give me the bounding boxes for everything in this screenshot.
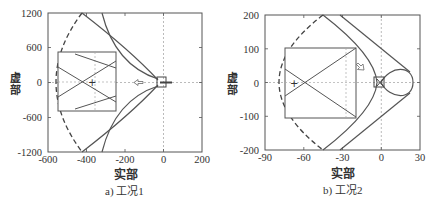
xlabel-b: 实部	[331, 164, 355, 181]
ytick-a-0: 0	[37, 77, 42, 88]
xtick-a-neg200: -200	[115, 154, 134, 165]
ylabel-b: 虚部	[223, 72, 239, 96]
xtick-a-neg400: -400	[77, 154, 96, 165]
caption-a: a) 工况1	[105, 182, 144, 198]
xtick-a-0: 0	[161, 154, 166, 165]
xtick-a-200: 200	[194, 154, 210, 165]
ytick-a-neg600: -600	[23, 112, 42, 123]
xlabel-a: 实部	[114, 165, 138, 182]
ylabel-a: 虚部	[6, 72, 22, 96]
chart-b-plot: + 200 100 0 -100 -200 -90 -60 -30 0 30	[215, 0, 430, 202]
svg-text:+: +	[88, 77, 96, 88]
xtick-b-0: 0	[379, 152, 384, 163]
xtick-a-neg600: -600	[38, 154, 57, 165]
chart-a-plot: + 1200 600 0 -600 -1200 -600 -400 -200 0…	[0, 0, 215, 202]
ytick-b-neg200: -200	[240, 145, 259, 156]
ytick-a-1200: 1200	[21, 8, 42, 19]
ytick-a-600: 600	[26, 42, 42, 53]
chart-panel-b: + 200 100 0 -100 -200 -90 -60 -30 0 30 虚…	[215, 0, 430, 202]
ytick-b-200: 200	[243, 10, 259, 21]
xtick-b-neg60: -60	[297, 152, 311, 163]
ytick-b-0: 0	[254, 78, 259, 89]
xtick-b-30: 30	[415, 152, 426, 163]
xtick-b-neg90: -90	[258, 152, 272, 163]
chart-panel-a: + 1200 600 0 -600 -1200 -600 -400 -200 0…	[0, 0, 215, 202]
svg-text:+: +	[290, 78, 298, 89]
ytick-b-100: 100	[243, 44, 259, 55]
xtick-b-neg30: -30	[336, 152, 350, 163]
ytick-b-neg100: -100	[240, 111, 259, 122]
caption-b: b) 工况2	[323, 181, 362, 197]
